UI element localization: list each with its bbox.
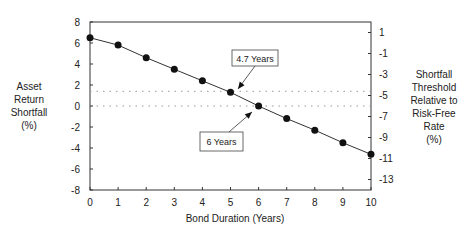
y-tick-label: -2: [71, 122, 80, 133]
arrowhead-icon: [238, 82, 245, 89]
y-tick-label: -8: [71, 185, 80, 196]
y-tick-label: 0: [74, 101, 80, 112]
y2-tick-label: -3: [379, 69, 388, 80]
x-axis-label: Bond Duration (Years): [180, 212, 290, 225]
x-tick-label: 4: [200, 197, 206, 208]
y2-tick-label: -7: [379, 111, 388, 122]
y-tick-label: -6: [71, 164, 80, 175]
y2-tick-label: -13: [379, 174, 394, 185]
y-tick-label: 4: [74, 59, 80, 70]
data-point: [199, 77, 206, 84]
y2-tick-label: 1: [379, 27, 385, 38]
annotation-label: 4.7 Years: [236, 54, 274, 64]
y-tick-label: 6: [74, 38, 80, 49]
y2-tick-label: -9: [379, 132, 388, 143]
y-tick-label: 2: [74, 80, 80, 91]
chart-svg: 86420-2-4-6-81-1-3-5-7-9-11-130123456789…: [0, 0, 468, 242]
x-tick-label: 10: [365, 197, 377, 208]
y2-tick-label: -11: [379, 153, 393, 164]
data-point: [115, 42, 122, 49]
x-tick-label: 3: [172, 197, 178, 208]
data-point: [339, 139, 346, 146]
x-tick-label: 0: [87, 197, 93, 208]
x-tick-label: 8: [312, 197, 318, 208]
data-point: [283, 115, 290, 122]
data-point: [368, 151, 375, 158]
y2-tick-label: -1: [379, 48, 388, 59]
data-point: [87, 34, 94, 41]
annotation-label: 6 Years: [206, 137, 237, 147]
data-point: [255, 103, 262, 110]
x-tick-label: 6: [256, 197, 262, 208]
x-tick-label: 9: [340, 197, 346, 208]
x-tick-label: 5: [228, 197, 234, 208]
data-point: [143, 54, 150, 61]
data-point: [227, 89, 234, 96]
y2-axis-label: ShortfallThresholdRelative toRisk-FreeRa…: [400, 68, 468, 146]
y2-tick-label: -5: [379, 90, 388, 101]
y-axis-label: AssetReturnShortfall(%): [4, 80, 54, 132]
x-tick-label: 7: [284, 197, 290, 208]
x-tick-label: 2: [143, 197, 149, 208]
data-point: [311, 127, 318, 134]
plot-frame: [90, 22, 371, 190]
x-tick-label: 1: [115, 197, 121, 208]
y-tick-label: 8: [74, 17, 80, 28]
data-point: [171, 66, 178, 73]
y-tick-label: -4: [71, 143, 80, 154]
